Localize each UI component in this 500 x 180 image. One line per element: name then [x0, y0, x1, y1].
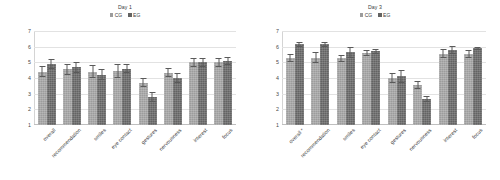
- bar-slot: [346, 31, 355, 125]
- error-bar: [67, 64, 68, 75]
- error-bar: [193, 58, 194, 67]
- y-tick-label: 4: [28, 75, 31, 81]
- error-bar-cap: [415, 88, 421, 89]
- y-tick-label: 5: [276, 59, 279, 65]
- bar-slot: [189, 31, 198, 125]
- bar-eg: [295, 44, 304, 125]
- x-tick-labels: overall *recommendationsmileseye contact…: [282, 127, 486, 177]
- bar-slot: [362, 31, 371, 125]
- error-bar: [299, 42, 300, 47]
- error-bar-cap: [165, 76, 171, 77]
- error-bar-cap: [73, 62, 79, 63]
- x-tick-label: overall: [42, 127, 57, 142]
- error-bar: [51, 59, 52, 68]
- error-bar: [76, 62, 77, 73]
- bar-cg: [439, 54, 448, 125]
- bar-group: [186, 31, 211, 125]
- chart-legend: CG EG: [0, 12, 250, 18]
- bar-eg: [122, 69, 131, 125]
- bar-slot: [295, 31, 304, 125]
- error-bar-cap: [296, 42, 302, 43]
- error-bar-cap: [364, 55, 370, 56]
- bar-cg: [311, 58, 320, 125]
- bar-slot: [63, 31, 72, 125]
- error-bar: [218, 58, 219, 67]
- error-bar-cap: [415, 81, 421, 82]
- error-bar-cap: [90, 65, 96, 66]
- error-bar-cap: [338, 55, 344, 56]
- error-bar: [452, 46, 453, 54]
- error-bar-cap: [287, 61, 293, 62]
- error-bar-cap: [347, 47, 353, 48]
- error-bar-cap: [115, 77, 121, 78]
- bar-eg: [397, 76, 406, 125]
- error-bar-cap: [149, 92, 155, 93]
- bar-slot: [371, 31, 380, 125]
- bar-slot: [422, 31, 431, 125]
- error-bar-cap: [440, 57, 446, 58]
- bar-slot: [47, 31, 56, 125]
- error-bar-cap: [39, 66, 45, 67]
- error-bar: [168, 68, 169, 77]
- error-bar: [92, 65, 93, 78]
- plot-area: 1234567: [34, 31, 236, 125]
- chart-panel-day1: Day 1 CG EG 1234567 overallrecommendatio…: [0, 0, 250, 180]
- error-bar-cap: [165, 68, 171, 69]
- y-tick-label: 1: [276, 122, 279, 128]
- bar-slot: [113, 31, 122, 125]
- error-bar-cap: [140, 86, 146, 87]
- error-bar: [324, 42, 325, 47]
- error-bar-cap: [322, 42, 328, 43]
- bar-group: [333, 31, 359, 125]
- bar-slot: [388, 31, 397, 125]
- bar-cg: [63, 69, 72, 125]
- legend-swatch-cg-icon: [110, 13, 113, 16]
- error-bar: [117, 64, 118, 78]
- error-bar-cap: [313, 62, 319, 63]
- bar-eg: [320, 44, 329, 125]
- bar-eg: [473, 48, 482, 125]
- bar-cg: [337, 58, 346, 125]
- error-bar: [417, 81, 418, 89]
- y-tick-label: 3: [28, 91, 31, 97]
- legend-item-cg: CG: [110, 12, 122, 18]
- y-tick-label: 7: [276, 28, 279, 34]
- bar-slot: [286, 31, 295, 125]
- x-tick-label: gestures: [389, 127, 407, 145]
- bar-cg: [388, 78, 397, 125]
- error-bar-cap: [398, 82, 404, 83]
- bar-slot: [164, 31, 173, 125]
- error-bar-cap: [338, 61, 344, 62]
- error-bar-cap: [73, 72, 79, 73]
- bar-cg: [362, 53, 371, 125]
- error-bar-cap: [373, 49, 379, 50]
- bar-slot: [173, 31, 182, 125]
- bar-group: [384, 31, 410, 125]
- error-bar-cap: [124, 72, 130, 73]
- error-bar: [290, 54, 291, 62]
- error-bar-cap: [140, 78, 146, 79]
- bar-eg: [223, 61, 232, 125]
- error-bar-cap: [449, 53, 455, 54]
- error-bar: [426, 96, 427, 102]
- bar-group: [461, 31, 487, 125]
- bar-eg: [198, 62, 207, 125]
- error-bar-cap: [191, 66, 197, 67]
- legend-label-eg: EG: [133, 12, 140, 18]
- bar-cg: [464, 54, 473, 125]
- legend-label-cg: CG: [115, 12, 123, 18]
- error-bar-cap: [475, 47, 481, 48]
- plot-area: 1234567: [282, 31, 486, 125]
- error-bar: [366, 50, 367, 56]
- bar-group: [110, 31, 135, 125]
- error-bar-cap: [48, 68, 54, 69]
- error-bar: [315, 52, 316, 63]
- x-tick-label: nervousness: [158, 127, 183, 152]
- y-tick-label: 1: [28, 122, 31, 128]
- error-bar: [375, 49, 376, 54]
- error-bar-cap: [124, 64, 130, 65]
- legend-item-eg: EG: [378, 12, 390, 18]
- error-bar-cap: [225, 64, 231, 65]
- error-bar-cap: [398, 70, 404, 71]
- y-tick-label: 6: [276, 44, 279, 50]
